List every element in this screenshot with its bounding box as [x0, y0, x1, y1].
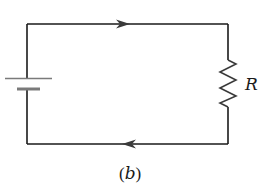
caption-letter: b [125, 163, 136, 183]
resistor-icon [220, 60, 236, 107]
figure-caption: (b) [119, 163, 141, 183]
caption-close: ) [136, 164, 142, 183]
circuit-diagram: R (b) [0, 0, 262, 189]
resistor-label: R [244, 74, 258, 94]
battery-icon [5, 79, 52, 90]
